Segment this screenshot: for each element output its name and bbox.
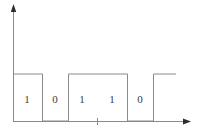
up-arrow-icon bbox=[11, 4, 16, 12]
signal-waveform bbox=[14, 74, 177, 121]
bit-label-3: 1 bbox=[105, 93, 119, 105]
bit-label-1: 0 bbox=[48, 93, 62, 105]
right-arrow-icon bbox=[183, 119, 191, 125]
bit-label-4: 0 bbox=[133, 93, 147, 105]
waveform-figure: 1 0 1 1 0 bbox=[0, 0, 197, 132]
bit-label-0: 1 bbox=[20, 93, 34, 105]
bit-label-2: 1 bbox=[75, 93, 89, 105]
waveform-canvas bbox=[0, 0, 197, 132]
